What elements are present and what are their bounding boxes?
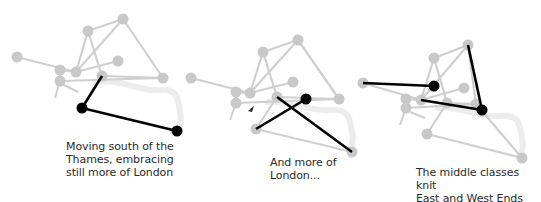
- highlight-edge: [82, 108, 177, 131]
- panel-3: [358, 40, 528, 164]
- network-edge: [427, 134, 522, 158]
- highlight-node: [172, 126, 183, 137]
- panel-1-caption: Moving south of the Thames, embracing st…: [66, 140, 174, 179]
- network-node: [293, 35, 304, 46]
- network-node: [186, 73, 197, 84]
- network-node: [231, 98, 242, 109]
- cursor-arrow-icon: [248, 106, 254, 112]
- network-node: [258, 47, 269, 58]
- network-edge: [17, 57, 76, 72]
- network-node: [459, 83, 470, 94]
- network-node: [245, 88, 256, 99]
- highlight-node: [477, 105, 488, 116]
- network-node: [55, 76, 66, 87]
- network-edge: [298, 40, 339, 99]
- road-stub: [62, 84, 78, 92]
- panel-1: [12, 14, 183, 137]
- network-node: [288, 77, 299, 88]
- highlight-node: [429, 81, 440, 92]
- network-node: [12, 52, 23, 63]
- highlight-node: [77, 103, 88, 114]
- network-edge: [60, 78, 163, 81]
- network-node: [429, 53, 440, 64]
- panel-3-caption: The middle classes knit East and West En…: [416, 166, 541, 202]
- network-node: [401, 103, 412, 114]
- network-node: [517, 153, 528, 164]
- london-network-diagram: Moving south of the Thames, embracing st…: [0, 0, 541, 202]
- panel-2-caption: And more of London...: [270, 156, 336, 182]
- network-node: [158, 73, 169, 84]
- network-node: [71, 67, 82, 78]
- network-node: [113, 56, 124, 67]
- network-edge: [123, 19, 163, 78]
- highlight-node: [301, 94, 312, 105]
- network-node: [83, 26, 94, 37]
- panel-2: [186, 35, 358, 158]
- network-node: [334, 94, 345, 105]
- road-stub: [410, 112, 425, 118]
- network-node: [422, 129, 433, 140]
- network-node: [55, 65, 66, 76]
- network-node: [231, 87, 242, 98]
- network-node: [118, 14, 129, 25]
